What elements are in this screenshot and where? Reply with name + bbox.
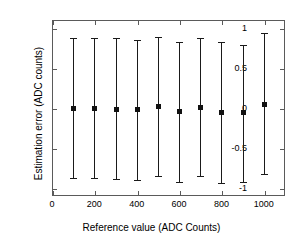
x-tick-label: 0	[49, 199, 54, 209]
y-tick-mark-right	[280, 69, 284, 70]
error-bar-upper-cap	[240, 45, 247, 46]
y-tick-mark	[53, 189, 57, 190]
error-bar-lower-cap	[134, 180, 141, 181]
error-bar-lower-cap	[218, 183, 225, 184]
error-bar-lower-cap	[91, 178, 98, 179]
data-point-marker	[114, 107, 119, 112]
x-axis-label: Reference value (ADC Counts)	[0, 222, 303, 233]
error-bar-lower-cap	[70, 178, 77, 179]
x-tick-mark-top	[138, 21, 139, 25]
x-tick-mark	[265, 191, 266, 195]
error-bar-lower-cap	[176, 182, 183, 183]
y-tick-mark-right	[280, 189, 284, 190]
x-tick-mark	[53, 191, 54, 195]
data-point-marker	[177, 109, 182, 114]
error-bar-lower-cap	[197, 176, 204, 177]
error-bar-upper-cap	[155, 37, 162, 38]
y-tick-mark-right	[280, 109, 284, 110]
error-bar-upper-cap	[113, 38, 120, 39]
x-tick-mark	[180, 191, 181, 195]
y-tick-label: 1	[242, 23, 247, 33]
x-tick-mark-top	[95, 21, 96, 25]
chart-figure: 10.50-0.5-1 02004006008001000 Estimation…	[0, 0, 303, 245]
x-tick-mark	[95, 191, 96, 195]
x-tick-mark-top	[222, 21, 223, 25]
error-bar-upper-cap	[134, 40, 141, 41]
error-bar-upper-cap	[176, 42, 183, 43]
data-point-marker	[198, 105, 203, 110]
x-tick-mark-top	[265, 21, 266, 25]
error-bar-upper-cap	[218, 42, 225, 43]
y-tick-mark-right	[280, 29, 284, 30]
y-tick-label: -0.5	[231, 143, 247, 153]
y-tick-mark	[53, 149, 57, 150]
y-tick-mark	[53, 109, 57, 110]
x-tick-label: 1000	[254, 199, 274, 209]
data-point-marker	[71, 106, 76, 111]
error-bar-lower-cap	[261, 174, 268, 175]
data-point-marker	[156, 104, 161, 109]
data-point-marker	[92, 106, 97, 111]
error-bar-lower-cap	[240, 182, 247, 183]
x-tick-label: 600	[172, 199, 187, 209]
x-tick-label: 800	[214, 199, 229, 209]
x-tick-mark	[138, 191, 139, 195]
plot-area	[52, 20, 285, 196]
error-bar-lower-cap	[113, 179, 120, 180]
error-bar-lower-cap	[155, 176, 162, 177]
y-tick-label: 0.5	[234, 63, 247, 73]
error-bar-upper-cap	[70, 38, 77, 39]
y-tick-mark	[53, 69, 57, 70]
error-bar-upper-cap	[261, 33, 268, 34]
y-tick-label: -1	[239, 183, 247, 193]
x-tick-mark	[222, 191, 223, 195]
error-bar-upper-cap	[91, 38, 98, 39]
data-point-marker	[135, 107, 140, 112]
x-tick-label: 200	[87, 199, 102, 209]
x-tick-mark-top	[180, 21, 181, 25]
data-point-marker	[219, 110, 224, 115]
x-tick-mark-top	[53, 21, 54, 25]
data-point-marker	[241, 110, 246, 115]
x-tick-label: 400	[129, 199, 144, 209]
data-point-marker	[262, 102, 267, 107]
y-axis-label: Estimation error (ADC counts)	[33, 29, 44, 199]
y-tick-mark-right	[280, 149, 284, 150]
error-bar-upper-cap	[197, 38, 204, 39]
y-tick-mark	[53, 29, 57, 30]
